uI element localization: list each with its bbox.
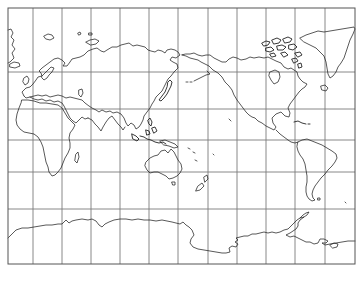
world-map bbox=[0, 0, 364, 281]
